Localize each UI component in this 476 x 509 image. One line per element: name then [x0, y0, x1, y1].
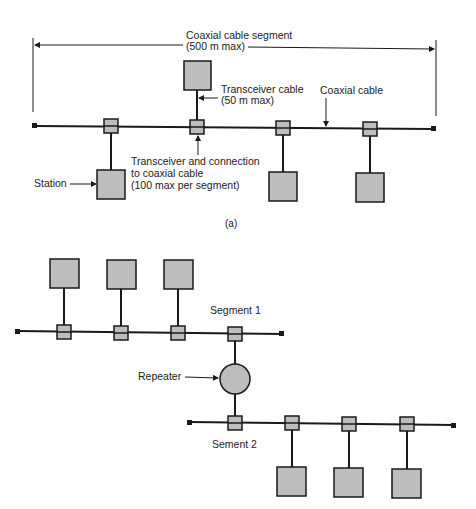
seg2-station-1: [277, 467, 306, 496]
seg1-station-3: [164, 260, 193, 289]
station-3: [269, 172, 297, 201]
station-4: [356, 173, 384, 202]
repeater-arrow: [185, 377, 218, 378]
station-top: [184, 61, 211, 90]
diagram-b: Segment 1 Repeater Sement 2: [15, 259, 456, 498]
station-1: [97, 170, 125, 199]
repeater: [220, 364, 250, 394]
segment-1-terminator-right: [279, 331, 284, 336]
segment-1-label: Segment 1: [210, 304, 261, 316]
segment-2-label: Sement 2: [212, 438, 257, 450]
transceiver-label-2: to coaxial cable: [131, 167, 204, 179]
transceiver-label-3: (100 max per segment): [131, 179, 240, 191]
seg2-station-2: [334, 468, 363, 497]
diagram-a: Coaxial cable segment (500 m max) Transc…: [32, 29, 436, 229]
caption-a: (a): [225, 218, 237, 229]
segment-1-terminator-left: [15, 329, 20, 334]
terminator-left: [32, 123, 37, 128]
dimension-arrow-right: [248, 47, 434, 49]
coaxial-cable-label: Coaxial cable: [320, 84, 383, 96]
transceiver-cable-max-label: (50 m max): [221, 94, 274, 106]
transceiver-label-1: Transceiver and connection: [131, 155, 260, 167]
seg1-station-1: [50, 259, 79, 288]
segment-2-terminator-right: [451, 423, 456, 428]
station-label: Station: [34, 177, 67, 189]
segment-2-terminator-left: [187, 420, 192, 425]
terminator-right: [431, 126, 436, 131]
segment-max-label: (500 m max): [186, 40, 245, 52]
seg1-station-2: [107, 260, 136, 289]
repeater-label: Repeater: [138, 370, 182, 382]
ethernet-topology-diagram: Coaxial cable segment (500 m max) Transc…: [0, 0, 476, 509]
seg2-station-3: [392, 469, 421, 498]
